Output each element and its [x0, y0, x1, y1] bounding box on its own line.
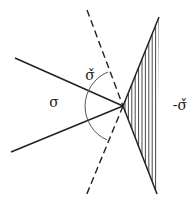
sigma-lower-ray: [11, 106, 123, 152]
dual-cone-label: σ̌: [85, 67, 95, 83]
negative-dual-cone-label: -σ̌: [173, 97, 188, 113]
sigma-label: σ: [49, 94, 59, 110]
negative-dual-cone-hatching: [125, 17, 159, 194]
negative-dual-cone-upper-edge: [123, 17, 159, 106]
cone-diagram: σ σ̌ -σ̌: [0, 0, 195, 208]
sigma-upper-ray: [15, 58, 123, 106]
